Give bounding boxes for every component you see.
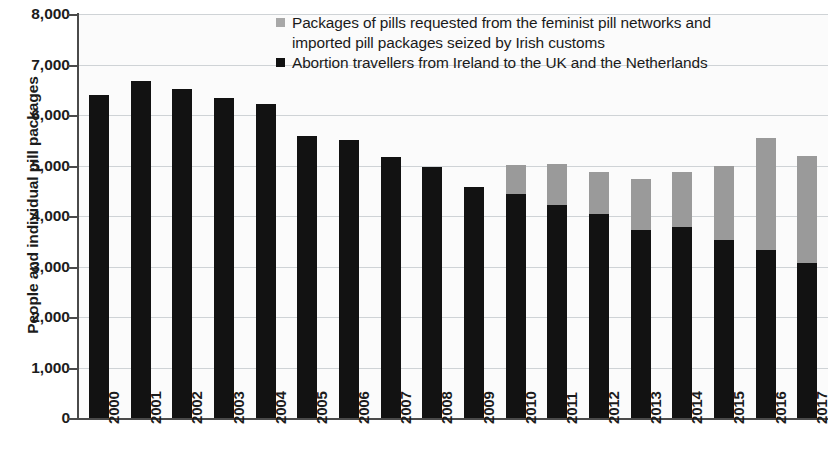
bar-group xyxy=(547,14,567,418)
bar-segment xyxy=(256,104,276,418)
bar-segment xyxy=(672,227,692,418)
bar-group xyxy=(631,14,651,418)
black-square-marker-icon xyxy=(276,58,285,67)
x-axis-tick-label: 2010 xyxy=(522,391,539,424)
legend-line-1: Packages of pills requested from the fem… xyxy=(292,14,711,31)
bars-layer xyxy=(78,14,828,418)
y-axis-tick-label: 3,000 xyxy=(8,259,70,275)
bar-segment xyxy=(631,230,651,418)
y-axis-tick-label: 7,000 xyxy=(8,57,70,73)
bar-group xyxy=(297,14,317,418)
bar-group xyxy=(256,14,276,418)
y-axis-tick-mark xyxy=(68,14,77,16)
legend-line-1: Abortion travellers from Ireland to the … xyxy=(292,54,708,71)
legend-item-abortion-travellers: Abortion travellers from Ireland to the … xyxy=(276,53,830,73)
bar-segment xyxy=(547,164,567,205)
y-axis-tick-label: 0 xyxy=(8,410,70,426)
bar-segment xyxy=(756,138,776,250)
x-axis-tick-label: 2009 xyxy=(480,391,497,424)
y-axis-tick-label: 4,000 xyxy=(8,208,70,224)
bar-group xyxy=(131,14,151,418)
x-axis-tick-label: 2007 xyxy=(397,391,414,424)
bar-segment xyxy=(89,95,109,418)
bar-group xyxy=(589,14,609,418)
bar-segment xyxy=(631,179,651,230)
bar-segment xyxy=(714,166,734,240)
bar-segment xyxy=(381,157,401,418)
bar-group xyxy=(381,14,401,418)
x-axis-tick-label: 2011 xyxy=(563,392,580,424)
x-axis-tick-label: 2006 xyxy=(355,391,372,424)
x-axis-tick-label: 2008 xyxy=(438,391,455,424)
y-axis-tick-label: 1,000 xyxy=(8,360,70,376)
x-axis-tick-label: 2014 xyxy=(688,391,705,424)
y-axis-tick-mark xyxy=(68,216,77,218)
bar-segment xyxy=(339,140,359,418)
x-axis-tick-label: 2016 xyxy=(772,391,789,424)
bar-group xyxy=(714,14,734,418)
y-axis-tick-label: 6,000 xyxy=(8,107,70,123)
bar-group xyxy=(339,14,359,418)
chart-legend: Packages of pills requested from the fem… xyxy=(276,13,830,74)
bar-group xyxy=(89,14,109,418)
y-axis-tick-mark xyxy=(68,317,77,319)
y-axis-tick-mark xyxy=(68,115,77,117)
y-axis-tick-label: 2,000 xyxy=(8,309,70,325)
y-axis-tick-labels: 8,0007,0006,0005,0004,0003,0002,0001,000… xyxy=(0,0,70,467)
x-axis-tick-label: 2017 xyxy=(813,391,830,424)
bar-segment xyxy=(214,98,234,418)
x-axis-tick-label: 2012 xyxy=(605,391,622,424)
bar-group xyxy=(797,14,817,418)
bar-group xyxy=(506,14,526,418)
y-axis-tick-mark xyxy=(68,267,77,269)
bar-segment xyxy=(297,136,317,418)
bar-segment xyxy=(422,167,442,418)
gray-square-marker-icon xyxy=(276,18,285,27)
bar-group xyxy=(214,14,234,418)
bar-segment xyxy=(506,165,526,194)
legend-item-label: Abortion travellers from Ireland to the … xyxy=(292,53,708,73)
legend-line-2: imported pill packages seized by Irish c… xyxy=(292,34,605,51)
bar-segment xyxy=(547,205,567,418)
x-axis-tick-label: 2000 xyxy=(105,391,122,424)
x-axis-tick-label: 2001 xyxy=(147,391,164,424)
x-axis-tick-label: 2003 xyxy=(230,391,247,424)
legend-item-pill-packages: Packages of pills requested from the fem… xyxy=(276,13,830,52)
bar-segment xyxy=(672,172,692,227)
bar-group xyxy=(172,14,192,418)
x-axis-tick-label: 2005 xyxy=(313,391,330,424)
bar-group xyxy=(756,14,776,418)
y-axis-tick-mark xyxy=(68,418,77,420)
bar-segment xyxy=(589,172,609,214)
x-axis-tick-label: 2004 xyxy=(272,391,289,424)
y-axis-tick-label: 8,000 xyxy=(8,6,70,22)
y-axis-tick-mark xyxy=(68,368,77,370)
y-axis-tick-label: 5,000 xyxy=(8,158,70,174)
bar-segment xyxy=(172,89,192,418)
bar-segment xyxy=(589,214,609,418)
bar-group xyxy=(464,14,484,418)
y-axis-tick-mark xyxy=(68,65,77,67)
x-axis-tick-label: 2015 xyxy=(730,391,747,424)
bar-group xyxy=(422,14,442,418)
x-axis-tick-labels: 2000200120022003200420052006200720082009… xyxy=(78,422,828,467)
bar-segment xyxy=(464,187,484,418)
bar-segment xyxy=(797,156,817,263)
y-axis-tick-mark xyxy=(68,166,77,168)
x-axis-tick-label: 2002 xyxy=(188,391,205,424)
bar-group xyxy=(672,14,692,418)
x-axis-tick-label: 2013 xyxy=(647,391,664,424)
bar-segment xyxy=(131,81,151,418)
legend-item-label: Packages of pills requested from the fem… xyxy=(292,13,711,52)
bar-segment xyxy=(506,194,526,418)
bar-chart: People and individual pill packages 8,00… xyxy=(0,0,830,467)
